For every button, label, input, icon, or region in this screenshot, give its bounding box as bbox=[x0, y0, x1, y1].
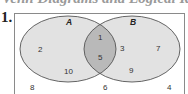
set-a-label: A bbox=[65, 17, 72, 27]
region-outside-value: 8 bbox=[30, 83, 35, 92]
region-a-only-value: 2 bbox=[38, 45, 43, 54]
region-b-only-value: 3 bbox=[120, 44, 125, 53]
region-outside-value: 4 bbox=[167, 83, 172, 92]
set-b-label: B bbox=[130, 17, 136, 27]
region-b-only-value: 7 bbox=[156, 44, 161, 53]
region-intersection-value: 5 bbox=[98, 53, 103, 62]
region-outside-value: 6 bbox=[103, 83, 108, 92]
region-a-only-value: 10 bbox=[64, 67, 73, 76]
region-b-only-value: 9 bbox=[129, 66, 134, 75]
region-intersection-value: 1 bbox=[98, 33, 103, 42]
venn-diagram: A B 2 10 1 5 3 7 9 8 6 4 bbox=[0, 0, 188, 94]
